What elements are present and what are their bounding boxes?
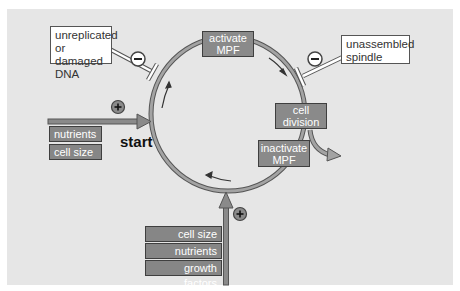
bottom-input-growth-factors: growth factors [145,260,222,276]
inactivate-mpf-box: inactivate MPF [258,140,310,167]
inhibitor-label: unassembled [346,38,405,51]
inhibitor-label: or damaged [55,42,107,68]
node-label: activate [209,32,247,44]
bottom-input-arrow [224,205,229,285]
bottom-input-nutrients: nutrients [145,243,222,259]
dna-inhibitor-box: unreplicated or damaged DNA [50,26,112,64]
node-label: MPF [216,44,239,56]
inhibitor-label: unreplicated [55,29,107,42]
node-label: cell [293,104,310,116]
node-label: inactivate [261,142,307,154]
plus-sign-icon [234,208,247,221]
activate-mpf-box: activate MPF [202,31,254,57]
minus-sign-icon [308,52,322,66]
node-label: division [283,116,320,128]
node-label: MPF [272,154,295,166]
start-label: start [120,133,153,150]
spindle-inhibitor-box: unassembled spindle [341,35,410,64]
inhibitor-label: DNA [55,68,107,81]
minus-sign-icon [131,52,145,66]
left-input-nutrients: nutrients [49,126,102,142]
plus-sign-icon [112,101,125,114]
bottom-input-cell-size: cell size [145,226,222,242]
inhibitor-label: spindle [346,51,405,64]
cell-division-box: cell division [275,103,327,129]
left-input-arrow [48,119,143,124]
left-input-cell-size: cell size [49,144,102,160]
